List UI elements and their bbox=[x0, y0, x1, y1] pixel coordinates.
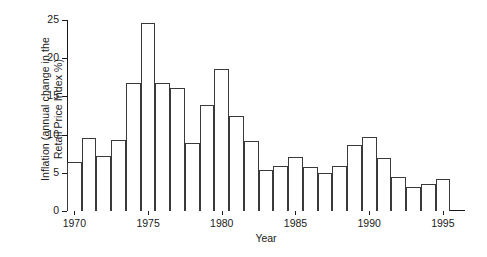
y-tick-mark bbox=[62, 96, 67, 97]
y-tick-label: 25 bbox=[47, 13, 59, 25]
bar-1971 bbox=[82, 138, 97, 211]
x-tick-label: 1985 bbox=[284, 217, 307, 229]
y-axis-label-line-2: Retail Price Index %) bbox=[52, 59, 65, 159]
bar-1992 bbox=[391, 177, 406, 211]
x-tick-mark bbox=[222, 211, 223, 215]
bar-1987 bbox=[318, 173, 333, 211]
x-tick-label: 1980 bbox=[210, 217, 233, 229]
bar-1991 bbox=[377, 158, 392, 211]
x-axis-label: Year bbox=[67, 232, 465, 244]
y-tick-mark bbox=[62, 58, 67, 59]
y-tick-label: 5 bbox=[53, 166, 59, 178]
bar-1989 bbox=[347, 145, 362, 211]
y-tick-mark bbox=[62, 135, 67, 136]
bar-1973 bbox=[111, 140, 126, 211]
y-tick-label: 0 bbox=[53, 204, 59, 216]
bar-1977 bbox=[170, 88, 185, 211]
inflation-bar-chart: Inflation (annual change in the Retail P… bbox=[0, 0, 487, 257]
bar-1972 bbox=[96, 156, 111, 211]
y-tick-label: 20 bbox=[47, 51, 59, 63]
bar-1985 bbox=[288, 157, 303, 211]
bar-1978 bbox=[185, 143, 200, 211]
bar-1990 bbox=[362, 137, 377, 211]
bar-1980 bbox=[214, 69, 229, 211]
y-tick-mark bbox=[62, 211, 67, 212]
bar-1984 bbox=[273, 166, 288, 211]
bar-1988 bbox=[332, 166, 347, 211]
bar-1974 bbox=[126, 83, 141, 211]
y-tick-mark bbox=[62, 20, 67, 21]
bar-1983 bbox=[259, 170, 274, 211]
x-tick-label: 1995 bbox=[431, 217, 454, 229]
bar-1993 bbox=[406, 187, 421, 211]
bar-1975 bbox=[141, 23, 156, 211]
x-tick-mark bbox=[295, 211, 296, 215]
x-tick-mark bbox=[148, 211, 149, 215]
bar-1976 bbox=[155, 83, 170, 211]
x-tick-label: 1990 bbox=[357, 217, 380, 229]
bar-1970 bbox=[67, 162, 82, 211]
x-tick-mark bbox=[74, 211, 75, 215]
bar-1994 bbox=[421, 184, 436, 211]
bar-1995 bbox=[436, 179, 451, 211]
y-tick-label: 10 bbox=[47, 128, 59, 140]
x-tick-mark bbox=[369, 211, 370, 215]
x-tick-mark bbox=[443, 211, 444, 215]
plot-area: 0510152025 197019751980198519901995 bbox=[67, 20, 465, 211]
bar-1986 bbox=[303, 167, 318, 211]
bar-1979 bbox=[200, 105, 215, 211]
x-tick-label: 1975 bbox=[136, 217, 159, 229]
y-tick-label: 15 bbox=[47, 89, 59, 101]
bar-1981 bbox=[229, 116, 244, 211]
x-tick-label: 1970 bbox=[63, 217, 86, 229]
bar-1982 bbox=[244, 141, 259, 211]
